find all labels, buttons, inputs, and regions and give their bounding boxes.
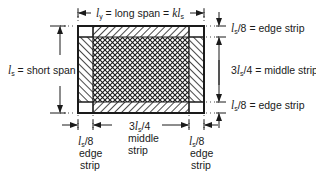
svg-text:strip: strip [128,144,148,156]
svg-text:strip: strip [80,159,100,171]
left-edge-strip [78,37,93,102]
right-label-middle: 3ls/4 = middle strip [231,64,316,77]
bottom-label-middle: 3ls/4 middle strip [128,120,159,156]
svg-text:edge: edge [190,147,214,159]
long-span-label: ly = long span = kls [96,7,185,21]
middle-region [93,37,189,102]
bottom-label-right-edge: ls/8 edge strip [189,135,214,171]
bottom-edge-strip [93,102,189,113]
top-edge-strip [93,26,189,37]
right-label-bottom-edge: ls/8 = edge strip [231,99,305,112]
right-label-top-edge: ls/8 = edge strip [231,22,305,35]
slab-panel [78,26,204,113]
short-span-label: ls = short span [8,64,76,77]
svg-text:middle: middle [128,132,159,144]
svg-text:strip: strip [191,159,211,171]
slab-strip-diagram: ly = long span = kls ls = short span ls/… [0,0,316,171]
right-edge-strip [189,37,204,102]
bottom-label-left-edge: ls/8 edge strip [78,135,103,171]
svg-text:edge: edge [79,147,103,159]
